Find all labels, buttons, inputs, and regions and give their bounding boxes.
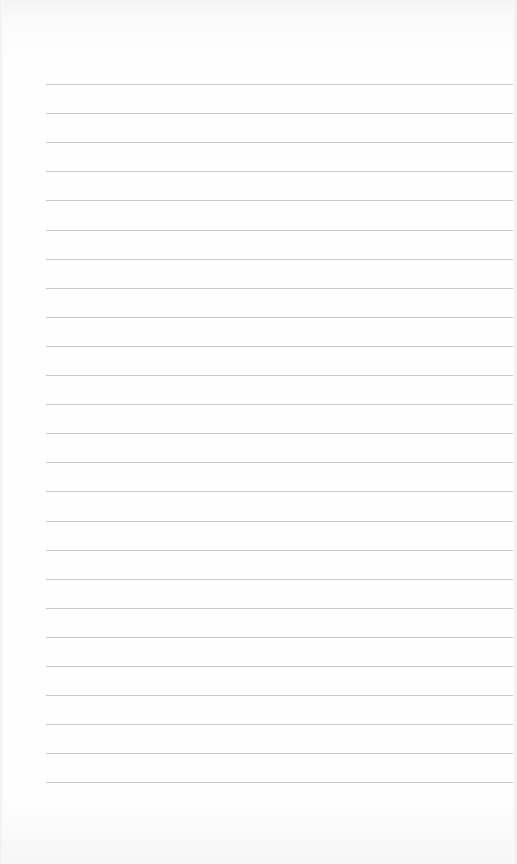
ruled-line — [46, 782, 513, 783]
ruled-line — [46, 317, 513, 318]
ruled-line — [46, 171, 513, 172]
ruled-line — [46, 579, 513, 580]
ruled-line — [46, 200, 513, 201]
ruled-line — [46, 288, 513, 289]
ruled-line — [46, 695, 513, 696]
ruled-line — [46, 259, 513, 260]
ruled-line — [46, 637, 513, 638]
lined-paper-sheet — [0, 0, 517, 864]
ruled-line — [46, 404, 513, 405]
ruled-line — [46, 230, 513, 231]
ruled-line — [46, 666, 513, 667]
ruled-line — [46, 724, 513, 725]
ruled-line — [46, 462, 513, 463]
ruled-line — [46, 433, 513, 434]
ruled-line — [46, 753, 513, 754]
paper-left-edge — [0, 0, 3, 864]
ruled-line — [46, 113, 513, 114]
ruled-line — [46, 608, 513, 609]
ruled-line — [46, 521, 513, 522]
ruled-line — [46, 142, 513, 143]
ruled-line — [46, 346, 513, 347]
ruled-line — [46, 491, 513, 492]
ruled-line — [46, 84, 513, 85]
ruled-line — [46, 550, 513, 551]
paper-right-edge — [513, 0, 517, 864]
ruled-line — [46, 375, 513, 376]
